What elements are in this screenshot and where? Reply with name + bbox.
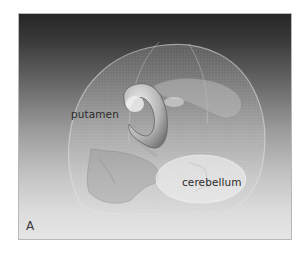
cerebellum-label: cerebellum — [182, 176, 242, 188]
putamen-label: putamen — [71, 108, 119, 120]
figure-panel: putamen cerebellum A — [18, 13, 292, 240]
brain-rendering — [19, 14, 292, 240]
panel-label: A — [26, 219, 34, 233]
